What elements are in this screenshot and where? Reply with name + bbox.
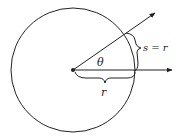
arc-brace	[126, 33, 141, 71]
radian-diagram: θ s = r r	[0, 0, 181, 137]
arc-length-label: s = r	[143, 42, 169, 53]
angle-label: θ	[97, 56, 104, 69]
radius-brace	[75, 72, 135, 83]
radius-label: r	[101, 86, 107, 99]
